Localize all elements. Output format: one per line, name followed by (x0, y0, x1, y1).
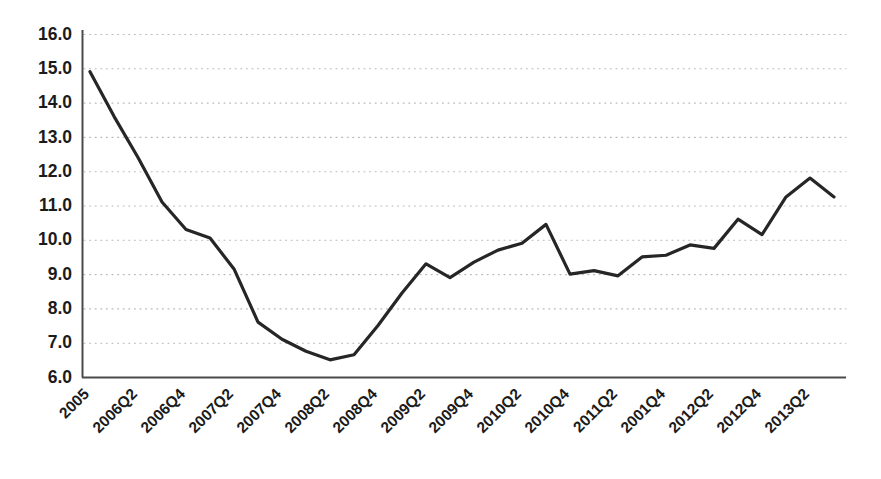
y-tick-label: 8.0 (48, 298, 73, 318)
x-tick-label: 2007Q2 (185, 385, 236, 436)
y-tick-label: 13.0 (38, 127, 72, 147)
x-tick-label: 2006Q2 (89, 385, 140, 436)
x-tick-label: 2009Q2 (377, 385, 428, 436)
x-tick-label: 2006Q4 (137, 385, 188, 436)
chart-container: 16.015.014.013.012.011.010.09.08.07.06.0… (0, 0, 881, 479)
y-tick-label: 12.0 (38, 161, 72, 181)
x-tick-label: 2011Q2 (570, 385, 620, 435)
axis-group (82, 30, 846, 378)
y-tick-label: 15.0 (38, 58, 72, 78)
x-tick-label: 2010Q4 (521, 385, 572, 436)
x-tick-label: 2012Q4 (713, 385, 764, 436)
y-tick-label: 14.0 (38, 92, 72, 112)
y-tick-label: 7.0 (48, 332, 73, 352)
x-tick-label: 2005 (56, 385, 93, 422)
x-tick-label: 2008Q4 (329, 385, 380, 436)
line-chart: 16.015.014.013.012.011.010.09.08.07.06.0… (0, 0, 881, 479)
y-axis-tick-labels: 16.015.014.013.012.011.010.09.08.07.06.0 (38, 24, 72, 387)
x-tick-label: 2013Q2 (761, 385, 812, 436)
x-axis-tick-labels: 20052006Q22006Q42007Q22007Q42008Q22008Q4… (56, 385, 812, 436)
y-tick-label: 16.0 (38, 24, 72, 44)
y-tick-label: 9.0 (48, 264, 73, 284)
x-tick-label: 2010Q2 (473, 385, 524, 436)
gridlines-group (84, 35, 846, 344)
x-tick-label: 2001Q4 (617, 385, 668, 436)
x-tick-label: 2008Q2 (281, 385, 332, 436)
x-tick-label: 2012Q2 (665, 385, 716, 436)
y-tick-label: 6.0 (48, 367, 73, 387)
data-series-group (90, 72, 834, 360)
series-line-rate (90, 72, 834, 360)
x-tick-label: 2007Q4 (233, 385, 284, 436)
y-tick-label: 11.0 (39, 195, 72, 215)
y-tick-label: 10.0 (38, 229, 72, 249)
x-tick-label: 2009Q4 (425, 385, 476, 436)
